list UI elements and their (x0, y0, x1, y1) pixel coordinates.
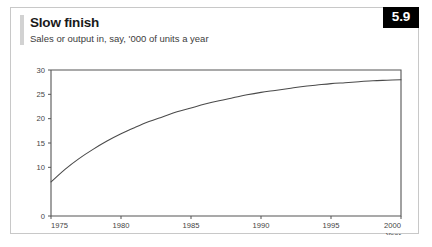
chart-subtitle: Sales or output in, say, '000 of units a… (30, 33, 209, 44)
x-tick-label: 1975 (51, 221, 68, 230)
title-accent-bar (20, 15, 24, 45)
figure-card: Slow finish Sales or output in, say, '00… (10, 7, 419, 234)
figure-number-badge: 5.9 (383, 7, 419, 28)
x-axis-tick-labels: 197519801985199019952000 (51, 221, 401, 230)
x-tick-label: 1985 (183, 221, 200, 230)
x-tick-label: 1995 (323, 221, 340, 230)
x-tick-label: 1990 (253, 221, 270, 230)
x-tick-label: 1980 (113, 221, 130, 230)
y-tick-label: 0 (41, 212, 45, 221)
page-title: Slow finish (30, 15, 99, 30)
y-tick-label: 15 (37, 139, 45, 148)
y-axis-tick-labels: 01015202530 (37, 66, 45, 221)
y-tick-label: 25 (37, 90, 45, 99)
x-axis-label: Year (386, 231, 402, 235)
y-tick-label: 20 (37, 114, 45, 123)
chart-plot: 01015202530 197519801985199019952000 Yea… (11, 48, 420, 235)
y-tick-label: 30 (37, 66, 45, 75)
y-tick-label: 10 (37, 163, 45, 172)
data-series-line (51, 80, 401, 182)
x-tick-label: 2000 (384, 221, 401, 230)
